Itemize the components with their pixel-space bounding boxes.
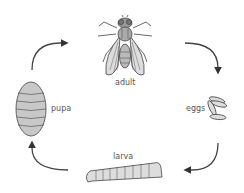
pupa-label: pupa [51, 105, 71, 113]
arrow-pupa-to-adult [32, 43, 66, 70]
larva-label: larva [113, 153, 133, 161]
arrow-eggs-to-larva [186, 143, 218, 170]
adult-fly-icon [98, 15, 152, 75]
arrow-larva-to-pupa [32, 143, 68, 170]
eggs-icon [206, 96, 227, 121]
arrow-adult-to-eggs [185, 43, 218, 72]
life-cycle-diagram [0, 0, 244, 193]
larva-icon [86, 163, 162, 182]
pupa-icon [16, 82, 46, 136]
adult-label: adult [115, 79, 135, 87]
eggs-label: eggs [186, 105, 205, 113]
